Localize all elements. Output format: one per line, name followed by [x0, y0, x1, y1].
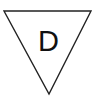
inverted-triangle-icon: D	[0, 0, 93, 99]
triangle-symbol: D	[0, 0, 93, 99]
triangle-label: D	[38, 25, 59, 57]
